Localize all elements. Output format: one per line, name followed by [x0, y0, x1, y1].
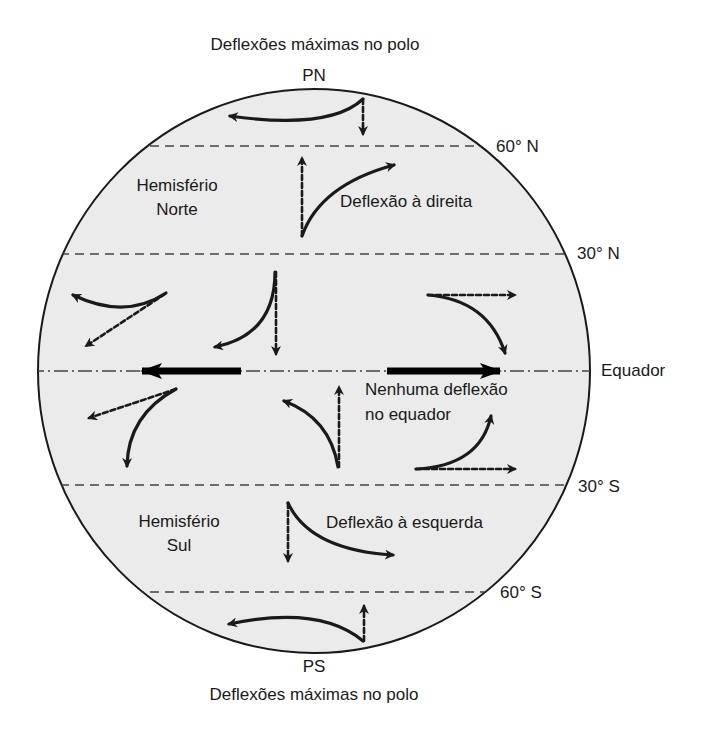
- latitude-60s-label: 60° S: [500, 583, 542, 603]
- equator-label: Equador: [601, 361, 665, 381]
- north-hemisphere-label-line1: Hemisfério: [136, 176, 217, 196]
- equator-note-line1: Nenhuma deflexão: [365, 380, 508, 400]
- latitude-30n-label: 30° N: [577, 244, 620, 264]
- north-deflection-label: Deflexão à direita: [340, 192, 472, 212]
- latitude-30s-label: 30° S: [578, 477, 620, 497]
- equator-note-line2: no equador: [365, 405, 451, 425]
- top-caption: Deflexões máximas no polo: [211, 35, 420, 55]
- south-pole-label: PS: [303, 657, 326, 677]
- north-hemisphere-label-line2: Norte: [156, 200, 198, 220]
- bottom-caption: Deflexões máximas no polo: [210, 685, 419, 705]
- north-pole-label: PN: [302, 66, 326, 86]
- south-hemisphere-label-line2: Sul: [167, 536, 192, 556]
- south-hemisphere-label-line1: Hemisfério: [138, 512, 219, 532]
- latitude-60n-label: 60° N: [496, 137, 539, 157]
- south-deflection-label: Deflexão à esquerda: [326, 513, 483, 533]
